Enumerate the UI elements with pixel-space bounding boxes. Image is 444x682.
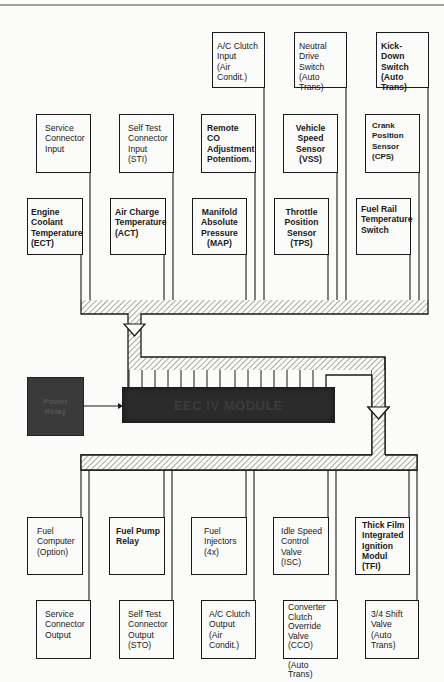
ac-clutch-input-box: A/C Clutch Input (Air Condit.): [212, 32, 265, 88]
vehicle-speed-sensor-box: Vehicle Speed Sensor (VSS): [283, 114, 338, 173]
self-test-connector-output-box: Self Test Connector Output (STO): [119, 600, 174, 659]
shift-valve-3-4-box: 3/4 Shift Valve (Auto Trans): [365, 600, 419, 659]
engine-coolant-temperature-box: Engine Coolant Temperature (ECT): [27, 198, 83, 255]
ac-clutch-output-box: A/C Clutch Output (Air Condit.): [201, 600, 256, 659]
idle-speed-control-valve-box: Idle Speed Control Valve (ISC): [273, 517, 329, 575]
manifold-absolute-pressure-box: Manifold Absolute Pressure (MAP): [192, 198, 247, 255]
throttle-position-sensor-box: Throttle Position Sensor (TPS): [274, 198, 329, 255]
output-bus: [81, 455, 417, 470]
fuel-injectors-box: Fuel Injectors (4x): [191, 517, 247, 575]
fuel-computer-box: Fuel Computer (Option): [27, 517, 83, 575]
kick-down-switch-box: Kick-Down Switch (Auto Trans): [376, 32, 429, 88]
crank-position-sensor-box: Crank Position Sensor (CPS): [365, 114, 420, 173]
thick-film-ignition-module-box: Thick Film Integrated Ignition Modul (TF…: [355, 517, 410, 575]
eec-iv-module: EEC IV MODULE: [122, 387, 335, 423]
self-test-connector-input-box: Self Test Connector Input (STI): [119, 114, 174, 173]
power-relay-box: Power Relay: [27, 377, 84, 436]
neutral-drive-switch-box: Neutral Drive Switch (Auto Trans): [294, 32, 347, 88]
converter-clutch-override-valve-box: Converter Clutch Override Valve (CCO) (A…: [283, 600, 338, 659]
input-bus-arrow-icon: [124, 324, 145, 336]
wiring-diagram: [0, 0, 444, 682]
remote-co-adjustment-box: Remote CO Adjustment Potentiom.: [201, 114, 256, 173]
module-pins: [129, 370, 313, 387]
service-connector-input-box: Service Connector Input: [36, 114, 91, 173]
fuel-pump-relay-box: Fuel Pump Relay: [109, 517, 165, 575]
fuel-rail-temperature-switch-box: Fuel Rail Temperature Switch: [356, 198, 411, 255]
service-connector-output-box: Service Connector Output: [36, 600, 91, 659]
air-charge-temperature-box: Air Charge Temperature (ACT): [110, 198, 166, 255]
